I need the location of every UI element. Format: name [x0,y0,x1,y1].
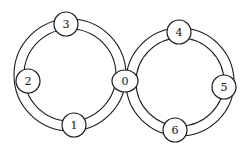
figure-eight-diagram: 0 1 2 3 4 5 6 [0,0,251,149]
node-4: 4 [167,20,191,44]
node-3-label: 3 [63,18,70,31]
node-0: 0 [112,70,138,92]
node-6: 6 [163,118,187,142]
node-1: 1 [62,113,86,137]
node-1-label: 1 [71,119,78,132]
node-2-label: 2 [25,75,32,88]
node-3: 3 [54,12,78,36]
node-4-label: 4 [176,26,183,39]
node-2: 2 [16,69,40,93]
node-6-label: 6 [172,124,179,137]
right-ring-inner [136,38,224,126]
node-5-label: 5 [221,81,228,94]
node-5: 5 [212,75,236,99]
node-0-label: 0 [122,75,129,88]
